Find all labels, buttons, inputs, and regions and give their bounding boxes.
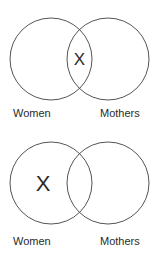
- label-women: Women: [13, 235, 51, 247]
- label-mothers: Mothers: [100, 235, 140, 247]
- venn-diagrams: X Women Mothers X Women Mothers: [0, 0, 158, 255]
- label-mothers: Mothers: [100, 107, 140, 119]
- label-women: Women: [13, 107, 51, 119]
- venn-diagram-intersection: X Women Mothers: [10, 18, 149, 119]
- circle-women: [10, 142, 92, 224]
- circle-mothers: [67, 142, 149, 224]
- x-mark: X: [74, 50, 85, 69]
- x-mark: X: [36, 171, 51, 196]
- venn-diagram-left-only: X Women Mothers: [10, 142, 149, 247]
